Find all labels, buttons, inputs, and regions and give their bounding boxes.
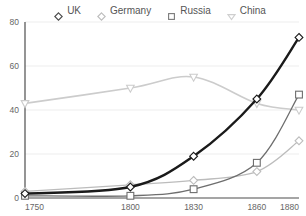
triangle-down-marker: [295, 107, 303, 114]
y-axis-tick-label: 20: [10, 149, 20, 159]
x-axis-tick-label: 1880: [280, 202, 299, 212]
y-axis-tick-label: 60: [10, 61, 20, 71]
square-open-marker: [190, 186, 197, 193]
triangle-down-marker: [21, 101, 29, 108]
gridlines: [25, 22, 299, 154]
chart-container: UK Germany Russia Ch: [0, 0, 306, 216]
y-axis-tick-label: 80: [10, 17, 20, 27]
diamond-open-marker: [253, 168, 261, 176]
square-open-marker: [296, 91, 303, 98]
x-axis: 17501800183018601880: [25, 198, 299, 212]
square-open-marker: [253, 159, 260, 166]
data-series-group: [21, 34, 303, 200]
diamond-open-marker: [190, 177, 198, 185]
chart-plot-area: 020406080 17501800183018601880: [0, 0, 306, 216]
square-open-marker: [127, 192, 134, 199]
x-axis-tick-label: 1860: [247, 202, 266, 212]
x-axis-tick-label: 1830: [184, 202, 203, 212]
y-axis: 020406080: [10, 17, 25, 203]
y-axis-tick-label: 40: [10, 105, 20, 115]
data-series-uk: [21, 34, 303, 198]
y-axis-tick-label: 0: [14, 193, 19, 203]
x-axis-tick-label: 1800: [121, 202, 140, 212]
x-axis-tick-label: 1750: [25, 202, 44, 212]
